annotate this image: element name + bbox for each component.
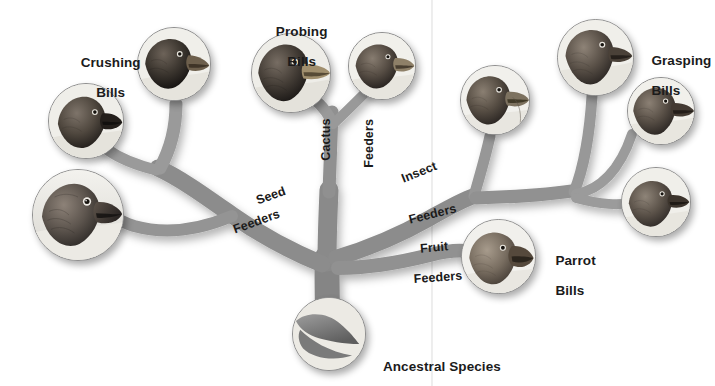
group-label-grasping-line2: Bills — [651, 83, 680, 98]
branch-label-cactus-line2: Feeders — [362, 119, 376, 168]
branch-label-cactus-line1: Cactus — [319, 118, 333, 160]
group-label-probing-line2: Bills — [287, 54, 316, 69]
group-label-crushing-bills: Crushing Bills — [58, 40, 148, 116]
group-label-grasping-line1: Grasping — [651, 53, 711, 68]
branch-label-fruit-line2: Feeders — [413, 269, 463, 286]
bird-circle-parrot-bill — [461, 219, 536, 294]
branch-label-insect-line1: Insect — [400, 159, 439, 186]
group-label-parrot-bills: Parrot Bills — [540, 238, 612, 314]
branch-label-insect-line2: Feeders — [407, 201, 458, 226]
group-label-probing-bills: Probing Bills — [252, 9, 336, 85]
branch-label-cactus: Cactus — [305, 118, 347, 175]
bird-circle-grasping-upper-bill — [557, 19, 634, 96]
branch-label-seed-line2: Feeders — [231, 207, 282, 237]
group-label-parrot-line1: Parrot — [555, 253, 595, 268]
bird-circle-ancestral-species — [292, 297, 366, 371]
branch-label-fruit-feeders: Feeders — [398, 255, 464, 301]
group-label-grasping-bills: Grasping Bills — [636, 38, 715, 114]
bird-circle-crushing-small-bill — [137, 27, 211, 101]
group-label-crushing-line1: Crushing — [81, 55, 141, 70]
bird-circle-probing-seed-bill — [348, 32, 416, 100]
diagram-canvas: Crushing Bills Probing Bills Grasping Bi… — [0, 0, 715, 386]
bird-circle-insect-feeder-bill — [460, 65, 530, 135]
root-label-ancestral-species: Ancestral Species — [368, 344, 501, 386]
group-label-parrot-line2: Bills — [555, 283, 584, 298]
root-label-text: Ancestral Species — [383, 359, 501, 374]
branch-label-fruit-line1: Fruit — [419, 239, 448, 255]
bird-circle-crushing-large-bill — [32, 169, 124, 261]
bird-circle-grasping-bottom-bill — [621, 167, 691, 237]
group-label-probing-line1: Probing — [276, 24, 328, 39]
group-label-crushing-line2: Bills — [96, 85, 125, 100]
